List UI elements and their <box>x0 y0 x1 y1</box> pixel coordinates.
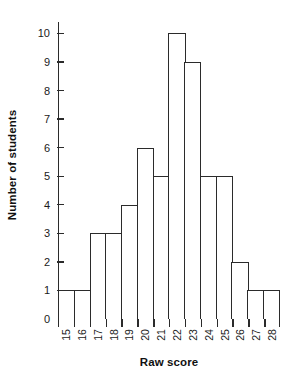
y-axis-title: Number of students <box>6 110 18 220</box>
histogram-bar <box>263 290 280 319</box>
histogram-bar <box>153 176 170 319</box>
y-tick-label: 5 <box>24 171 50 182</box>
histogram-bar <box>247 290 264 319</box>
y-tick-label: 0 <box>24 314 50 325</box>
plot-area <box>58 22 280 319</box>
y-tick-label: 1 <box>24 285 50 296</box>
y-tick-mark <box>57 61 64 62</box>
y-tick-mark <box>57 233 64 234</box>
histogram-bar <box>231 262 248 319</box>
x-tick-label: 27 <box>249 322 263 348</box>
histogram-bar <box>168 33 185 319</box>
x-axis-tick-labels: 1516171819202122232425262728 <box>58 328 280 354</box>
x-tick-label: 26 <box>233 322 247 348</box>
x-tick-label: 25 <box>218 322 232 348</box>
x-tick-label: 28 <box>265 322 279 348</box>
y-axis-title-container: Number of students <box>0 0 24 330</box>
histogram-bar <box>184 62 201 319</box>
y-tick-label: 4 <box>24 199 50 210</box>
y-tick-label: 7 <box>24 114 50 125</box>
y-tick-mark <box>57 90 64 91</box>
histogram-bar <box>216 176 233 319</box>
y-tick-label: 3 <box>24 228 50 239</box>
y-axis-tick-labels: 012345678910 <box>24 0 54 330</box>
x-tick-label: 18 <box>107 322 121 348</box>
x-tick-label: 19 <box>122 322 136 348</box>
x-tick-label: 20 <box>138 322 152 348</box>
histogram-figure: Number of students 012345678910 15161718… <box>0 0 297 375</box>
y-tick-label: 9 <box>24 56 50 67</box>
y-tick-mark <box>57 290 64 291</box>
x-tick-label: 24 <box>202 322 216 348</box>
x-tick-label: 17 <box>91 322 105 348</box>
bar-series <box>58 22 280 319</box>
x-tick-label: 21 <box>154 322 168 348</box>
y-tick-mark <box>57 261 64 262</box>
y-tick-label: 6 <box>24 142 50 153</box>
x-tick-label: 16 <box>75 322 89 348</box>
x-tick-label: 22 <box>170 322 184 348</box>
histogram-bar <box>74 290 91 319</box>
histogram-bar <box>137 148 154 319</box>
histogram-bar <box>105 233 122 319</box>
x-tick-label: 23 <box>186 322 200 348</box>
y-tick-mark <box>57 33 64 34</box>
y-tick-mark <box>57 204 64 205</box>
histogram-bar <box>121 205 138 319</box>
y-tick-mark <box>57 147 64 148</box>
histogram-bar <box>58 290 75 319</box>
x-tick-label: 15 <box>59 322 73 348</box>
y-tick-label: 8 <box>24 85 50 96</box>
y-tick-mark <box>57 176 64 177</box>
y-tick-mark <box>57 118 64 119</box>
histogram-bar <box>90 233 107 319</box>
y-tick-label: 10 <box>24 28 50 39</box>
histogram-bar <box>200 176 217 319</box>
y-tick-label: 2 <box>24 256 50 267</box>
x-axis-title: Raw score <box>58 356 280 368</box>
